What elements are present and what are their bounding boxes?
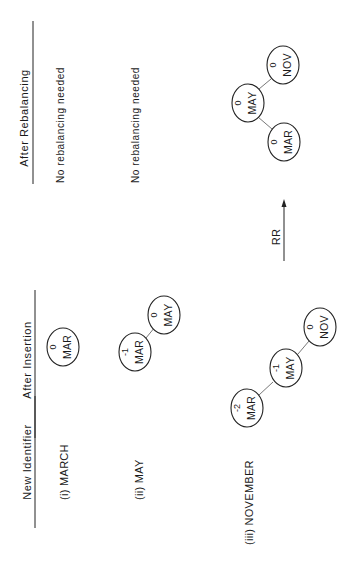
node-name: NOV (281, 53, 293, 77)
tree-node-mar: 0 MAR (47, 328, 79, 366)
node-name: MAY (284, 357, 296, 380)
node-name: MAR (245, 396, 257, 420)
tree-node-may: 0 MAY (232, 84, 264, 122)
tree-edge (298, 341, 309, 354)
balance-factor: -1 (271, 364, 281, 372)
tree-edge (259, 79, 271, 89)
rebalancing-note: No rebalancing needed (55, 67, 66, 183)
tree-edge (259, 382, 273, 395)
tree-node-may: -1 MAY (270, 349, 302, 387)
node-name: MAY (246, 92, 258, 115)
header-after-rebalancing: After Rebalancing (18, 21, 33, 184)
tree-node-mar: 0 MAR (268, 123, 300, 161)
rebalancing-note: No rebalancing needed (130, 67, 141, 183)
header-after-insertion: After Insertion (21, 290, 35, 438)
tree-node-may: 0 MAY (148, 296, 180, 334)
tree-node-nov: 0 NOV (267, 46, 299, 84)
header-new-identifier-text: New Identifier (21, 424, 33, 500)
rr-rotation-arrow: RR (270, 199, 287, 261)
balance-factor: -1 (120, 348, 130, 356)
node-name: MAR (61, 335, 73, 359)
row-label-may: (ii) MAY (133, 459, 145, 500)
node-name: NOV (318, 315, 330, 339)
tree-node-mar: -2 MAR (231, 389, 263, 427)
balance-factor: -2 (232, 404, 242, 412)
rotation-label: RR (270, 229, 282, 246)
node-name: MAR (133, 340, 145, 364)
node-name: MAR (282, 130, 294, 154)
tree-node-nov: 0 NOV (304, 308, 336, 346)
avl-insertion-diagram: New Identifier After Insertion After Reb… (0, 0, 360, 569)
tree-edge (258, 117, 272, 129)
balance-factor: 0 (305, 324, 315, 329)
balance-factor: 0 (269, 139, 279, 144)
tree-node-mar: -1 MAR (119, 333, 151, 371)
balance-factor: 0 (233, 100, 243, 105)
row-label-november: (iii) NOVEMBER (243, 460, 255, 545)
header-after-rebalancing-text: After Rebalancing (18, 69, 30, 167)
row-label-march: (i) MARCH (58, 444, 70, 500)
node-name: MAY (162, 304, 174, 327)
balance-factor: 0 (48, 344, 58, 349)
header-new-identifier: New Identifier (21, 396, 35, 528)
balance-factor: 0 (149, 312, 159, 317)
header-after-insertion-text: After Insertion (21, 321, 33, 398)
balance-factor: 0 (268, 62, 278, 67)
arrow-head-icon (282, 199, 287, 207)
